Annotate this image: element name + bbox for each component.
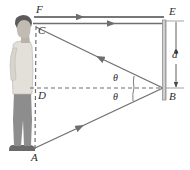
person-figure (9, 15, 35, 151)
label-D: D (38, 90, 46, 101)
mirror-surface (163, 20, 166, 100)
label-B: B (169, 91, 176, 102)
angle-arc-lower (133, 88, 134, 101)
diagram-canvas (0, 0, 190, 170)
label-A: A (31, 152, 38, 163)
label-theta-lower: θ (113, 92, 118, 102)
label-d: d (172, 49, 178, 60)
person-pants (13, 92, 32, 146)
label-F: F (36, 4, 43, 15)
ray-A-to-B (35, 88, 163, 148)
angle-arc-upper (133, 76, 134, 88)
ray-B-to-C (36, 27, 163, 88)
label-theta-upper: θ (113, 73, 118, 83)
mirror (163, 20, 167, 100)
label-C: C (38, 25, 45, 36)
label-E: E (169, 6, 176, 17)
ray-diagram-figure: F C D A E B d θ θ (0, 0, 190, 170)
dashed-line-body-axis (35, 26, 36, 149)
